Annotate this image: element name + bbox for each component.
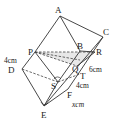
label-R: R bbox=[96, 47, 102, 57]
label-Q: Q bbox=[72, 64, 79, 74]
measure-6cm: 6cm bbox=[89, 65, 102, 74]
label-E: E bbox=[41, 110, 47, 120]
label-C: C bbox=[103, 27, 109, 37]
label-F: F bbox=[67, 90, 72, 100]
measure-4cm-left: 4cm bbox=[4, 56, 17, 65]
label-B: B bbox=[77, 41, 83, 51]
geometry-figure: A C B R P D Q T S F E 4cm 6cm 4cm xcm bbox=[0, 0, 116, 121]
measure-4cm-right: 4cm bbox=[76, 81, 89, 90]
label-S: S bbox=[51, 81, 56, 91]
label-P: P bbox=[28, 47, 33, 57]
label-T: T bbox=[80, 71, 86, 81]
label-D: D bbox=[8, 65, 15, 75]
label-A: A bbox=[55, 5, 62, 15]
measure-xcm: xcm bbox=[71, 100, 85, 109]
